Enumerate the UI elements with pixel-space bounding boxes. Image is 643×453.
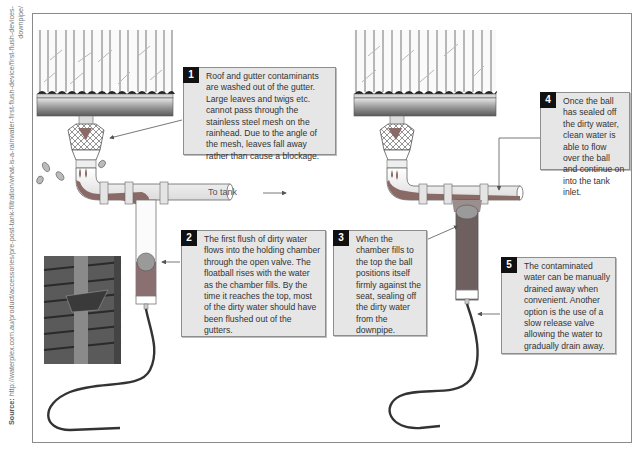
callout-5: 5 The contaminated water can be manually…: [501, 257, 616, 354]
callout-3: 3 When the chamber fills to the top the …: [333, 230, 427, 336]
to-tank-label: To tank: [208, 187, 237, 197]
step-number-badge: 1: [183, 67, 199, 83]
step-number-badge: 4: [540, 92, 556, 108]
left-roof: [37, 30, 175, 116]
leader-1: [110, 120, 182, 138]
downpipe-photo: [44, 256, 121, 364]
callout-4: 4 Once the ball has sealed off the dirty…: [540, 92, 630, 170]
leader-4: [499, 138, 540, 190]
right-roof: [354, 30, 497, 116]
callout-text: Once the ball has sealed off the dirty w…: [563, 96, 625, 199]
right-pipe: [387, 168, 523, 204]
leader-3: [426, 226, 458, 240]
callout-text: The contaminated water can be manually d…: [524, 261, 611, 352]
right-rainhead: [380, 116, 414, 168]
step-number-badge: 3: [333, 230, 349, 246]
callout-1: 1 Roof and gutter contaminants are washe…: [183, 67, 336, 155]
step-number-badge: 2: [181, 230, 197, 246]
callout-text: Roof and gutter contaminants are washed …: [206, 71, 331, 162]
callout-2: 2 The first flush of dirty water flows i…: [181, 230, 326, 337]
left-rainhead: [68, 116, 104, 168]
callout-text: When the chamber fills to the top the ba…: [356, 234, 422, 337]
step-number-badge: 5: [501, 257, 517, 273]
callout-text: The first flush of dirty water flows int…: [204, 234, 321, 337]
